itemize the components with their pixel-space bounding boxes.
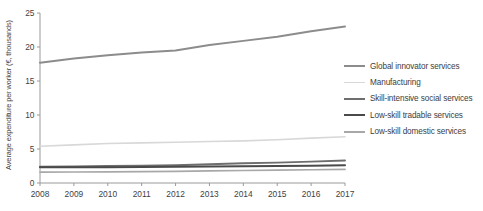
y-axis-tick-label: 25 [25,8,35,18]
y-axis-tick-label: 10 [25,110,35,120]
x-axis-tick-label: 2009 [65,189,84,199]
line-chart: Average expenditure per worker (€, thous… [0,0,483,211]
y-axis-tick-label: 5 [30,144,35,154]
series-line [40,169,345,172]
x-axis-tick-label: 2016 [302,189,321,199]
legend-item-label: Low-skill domestic services [370,127,466,136]
y-axis-tick-label: 0 [30,178,35,188]
legend-item-label: Skill-intensive social services [370,94,472,103]
series-line [40,137,345,147]
y-axis-tick-label: 20 [25,42,35,52]
x-axis-tick-label: 2012 [166,189,185,199]
legend-item[interactable]: Low-skill domestic services [344,124,483,140]
x-axis-tick-label: 2010 [98,189,117,199]
chart-legend: Global innovator servicesManufacturingSk… [344,58,483,140]
series-line [40,27,345,63]
legend-item-label: Manufacturing [370,78,421,87]
legend-item[interactable]: Low-skill tradable services [344,107,483,123]
legend-item[interactable]: Global innovator services [344,58,483,74]
legend-item[interactable]: Manufacturing [344,74,483,90]
legend-swatch-icon [344,98,365,100]
legend-item[interactable]: Skill-intensive social services [344,91,483,107]
y-axis-tick-label: 15 [25,76,35,86]
x-axis-tick-label: 2017 [336,189,355,199]
x-axis-tick-label: 2013 [200,189,219,199]
x-axis-tick-label: 2011 [133,189,151,199]
legend-swatch-icon [344,82,365,84]
x-axis-tick-label: 2014 [234,189,253,199]
legend-swatch-icon [344,131,365,133]
legend-item-label: Global innovator services [370,62,459,71]
x-axis-tick-label: 2015 [268,189,287,199]
legend-swatch-icon [344,114,365,116]
legend-swatch-icon [344,65,365,67]
legend-item-label: Low-skill tradable services [370,111,463,120]
x-axis-tick-label: 2008 [31,189,50,199]
